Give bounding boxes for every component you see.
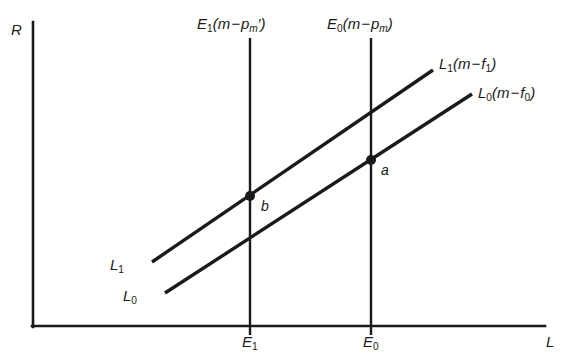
point-a-marker [366, 155, 376, 165]
x-tick-e0-sub: 0 [373, 341, 379, 352]
e0-vertical-label: E0(m−pm) [327, 16, 393, 31]
l0-left-sub: 0 [131, 295, 137, 306]
economics-diagram: R L E1 E0 E1(m−pm′) E0(m−pm) L1(m−f1) L0… [0, 0, 569, 363]
e1-vertical-label: E1(m−pm′) [197, 16, 265, 31]
x-tick-e1-main: E [242, 333, 252, 350]
l1-label-arg: m [458, 55, 471, 72]
l0-label-close-paren: ) [530, 84, 535, 101]
l0-label-arg: m [497, 84, 510, 101]
point-b-label: b [261, 199, 269, 213]
x-tick-e0-main: E [363, 333, 373, 350]
e1-label-arg: m [218, 15, 231, 32]
x-tick-label-e0: E0 [363, 334, 379, 349]
l1-left-label: L1 [110, 257, 124, 272]
e0-label-minus: − [360, 15, 371, 32]
point-a-label: a [381, 163, 389, 177]
l1-label-close-paren: ) [491, 55, 496, 72]
e0-label-sub: 0 [337, 23, 343, 34]
l1-curve [152, 70, 433, 262]
l1-label-sub: 1 [447, 63, 453, 74]
l1-label-minus: − [471, 55, 482, 72]
x-axis-label: L [546, 334, 554, 349]
e0-label-var-sub: m [379, 23, 388, 34]
e1-label-var-sub: m [249, 23, 258, 34]
l0-curve [165, 94, 472, 293]
x-tick-label-e1: E1 [242, 334, 258, 349]
l0-label-var-sub: 0 [524, 92, 530, 103]
e1-label-close-paren: ) [260, 15, 265, 32]
e1-label-sub: 1 [207, 23, 213, 34]
point-b-marker [245, 191, 255, 201]
l0-curve-label: L0(m−f0) [478, 85, 535, 100]
e0-label-main: E [327, 15, 337, 32]
l0-label-minus: − [510, 84, 521, 101]
e1-label-minus: − [230, 15, 241, 32]
l1-label-var-sub: 1 [485, 63, 491, 74]
y-axis-label: R [11, 22, 22, 37]
l0-label-sub: 0 [486, 92, 492, 103]
x-tick-e1-sub: 1 [252, 341, 258, 352]
l1-curve-label: L1(m−f1) [439, 56, 496, 71]
l0-left-label: L0 [123, 288, 137, 303]
e1-label-main: E [197, 15, 207, 32]
e0-label-arg: m [348, 15, 361, 32]
e0-label-close-paren: ) [388, 15, 393, 32]
l1-left-sub: 1 [118, 264, 124, 275]
